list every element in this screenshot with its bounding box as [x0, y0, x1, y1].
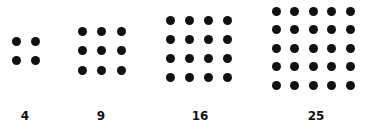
dot: [346, 62, 355, 71]
dot: [166, 54, 175, 63]
dot: [290, 62, 299, 71]
dot: [185, 35, 194, 44]
dot: [78, 66, 87, 75]
dot: [78, 46, 87, 55]
dot: [346, 25, 355, 34]
dot: [223, 35, 232, 44]
dot: [346, 81, 355, 90]
dot: [117, 46, 126, 55]
dot: [272, 81, 281, 90]
dot: [327, 25, 336, 34]
dot: [309, 44, 318, 53]
array-count-label: 25: [308, 110, 325, 122]
dot: [12, 37, 21, 46]
dot: [290, 44, 299, 53]
dot: [78, 27, 87, 36]
dot: [166, 16, 175, 25]
dot: [97, 66, 106, 75]
dot: [309, 25, 318, 34]
dot: [166, 35, 175, 44]
dot: [346, 44, 355, 53]
dot: [327, 44, 336, 53]
dot: [272, 25, 281, 34]
dot: [223, 16, 232, 25]
dot: [346, 7, 355, 16]
array-count-label: 16: [192, 110, 209, 122]
dot: [12, 56, 21, 65]
dot: [204, 73, 213, 82]
dot: [290, 25, 299, 34]
dot: [185, 16, 194, 25]
dot: [327, 7, 336, 16]
dot: [309, 7, 318, 16]
dot: [166, 73, 175, 82]
dot: [309, 81, 318, 90]
dot: [204, 35, 213, 44]
dot: [185, 54, 194, 63]
dot: [204, 54, 213, 63]
dot: [223, 54, 232, 63]
dot: [204, 16, 213, 25]
array-count-label: 9: [97, 110, 105, 122]
dot: [185, 73, 194, 82]
dot: [309, 62, 318, 71]
dot: [117, 27, 126, 36]
dot: [223, 73, 232, 82]
dot: [272, 62, 281, 71]
dot: [327, 81, 336, 90]
dot: [117, 66, 126, 75]
dot: [97, 27, 106, 36]
dot: [97, 46, 106, 55]
dot: [31, 37, 40, 46]
dot: [272, 44, 281, 53]
array-count-label: 4: [21, 110, 29, 122]
dot: [327, 62, 336, 71]
dot: [31, 56, 40, 65]
dot: [272, 7, 281, 16]
dot: [290, 7, 299, 16]
dot: [290, 81, 299, 90]
